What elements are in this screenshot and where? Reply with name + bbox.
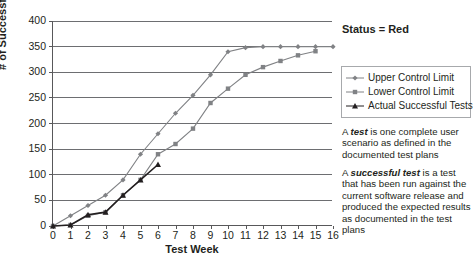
diamond-marker (330, 44, 335, 49)
square-marker (226, 86, 230, 90)
legend-item[interactable]: Actual Successful Tests (345, 99, 467, 113)
y-tick-label: 400 (0, 15, 46, 25)
square-marker (313, 49, 317, 53)
x-axis-label: Test Week (52, 243, 332, 255)
triangle-marker (155, 162, 161, 168)
status-badge: Status = Red (342, 23, 409, 35)
square-marker (296, 53, 300, 57)
square-marker (191, 126, 195, 130)
chart-legend: Upper Control LimitLower Control LimitAc… (341, 66, 471, 118)
diamond-marker (85, 203, 90, 208)
y-tick-label: 50 (0, 194, 46, 204)
y-tick-label: 0 (0, 220, 46, 230)
series-line (53, 47, 333, 226)
y-tick-label: 200 (0, 118, 46, 128)
y-tick-label: 100 (0, 169, 46, 179)
y-tick-label: 350 (0, 41, 46, 51)
diamond-marker (295, 44, 300, 49)
y-tick-label: 300 (0, 66, 46, 76)
y-tick-label: 150 (0, 143, 46, 153)
series-lines (53, 21, 333, 226)
defined-term: successful test (351, 167, 420, 178)
legend-label: Actual Successful Tests (368, 100, 473, 112)
diamond-marker (260, 44, 265, 49)
control-chart: # of Successful Tests 050100150200250300… (0, 0, 340, 274)
chart-screenshot: # of Successful Tests 050100150200250300… (0, 0, 474, 274)
y-tick-label: 250 (0, 92, 46, 102)
side-panel: Status = Red Upper Control LimitLower Co… (340, 0, 474, 274)
diamond-marker (352, 75, 357, 80)
square-marker (278, 59, 282, 63)
square-marker (353, 90, 357, 94)
definition-successful-test: A successful test is a test that has bee… (342, 167, 474, 235)
legend-item[interactable]: Lower Control Limit (345, 85, 467, 99)
y-axis-label: # of Successful Tests (0, 0, 8, 70)
square-marker (208, 101, 212, 105)
diamond-marker (278, 44, 283, 49)
series-line (53, 51, 316, 226)
legend-label: Lower Control Limit (368, 86, 454, 98)
legend-label: Upper Control Limit (368, 72, 454, 84)
plot-area: 050100150200250300350400 012345678910111… (52, 21, 332, 226)
square-icon (345, 86, 365, 98)
defined-term: test (351, 126, 368, 137)
legend-item[interactable]: Upper Control Limit (345, 71, 467, 85)
square-marker (243, 73, 247, 77)
square-marker (156, 152, 160, 156)
diamond-marker (313, 44, 318, 49)
square-marker (261, 65, 265, 69)
definition-test: A test is one complete user scenario as … (342, 126, 474, 160)
diamond-icon (345, 72, 365, 84)
square-marker (173, 142, 177, 146)
diamond-marker (243, 45, 248, 50)
triangle-icon (345, 100, 365, 112)
diamond-marker (68, 213, 73, 218)
